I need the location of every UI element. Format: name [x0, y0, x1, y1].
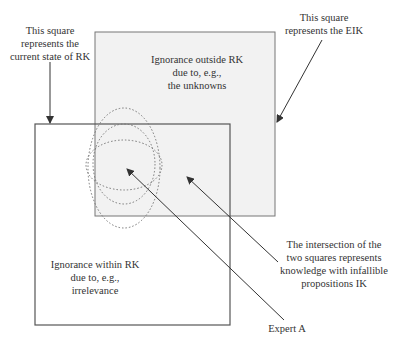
- label-line: The intersection of the: [276, 238, 392, 251]
- rk-square-label: This square represents the current state…: [6, 24, 94, 63]
- label-line: This square: [276, 11, 372, 24]
- label-line: Ignorance outside RK: [132, 53, 262, 66]
- label-line: current state of RK: [6, 50, 94, 63]
- eik-square-label: This square represents the EIK: [276, 11, 372, 37]
- label-line: two squares represents: [276, 251, 392, 264]
- ignorance-outside-label: Ignorance outside RK due to, e.g., the u…: [132, 53, 262, 92]
- intersection-label: The intersection of the two squares repr…: [276, 238, 392, 290]
- label-line: knowledge with infallible: [276, 264, 392, 277]
- label-line: This square: [6, 24, 94, 37]
- label-line: irrelevance: [40, 284, 150, 297]
- ignorance-within-label: Ignorance within RK due to, e.g., irrele…: [40, 258, 150, 297]
- label-line: the unknowns: [132, 79, 262, 92]
- label-line: due to, e.g.,: [132, 66, 262, 79]
- label-line: propositions IK: [276, 277, 392, 290]
- label-line: Ignorance within RK: [40, 258, 150, 271]
- expert-a-label: Expert A: [262, 322, 312, 335]
- label-line: represents the: [6, 37, 94, 50]
- label-line: due to, e.g.,: [40, 271, 150, 284]
- eik-pointer-arrow: [277, 40, 322, 122]
- label-line: represents the EIK: [276, 24, 372, 37]
